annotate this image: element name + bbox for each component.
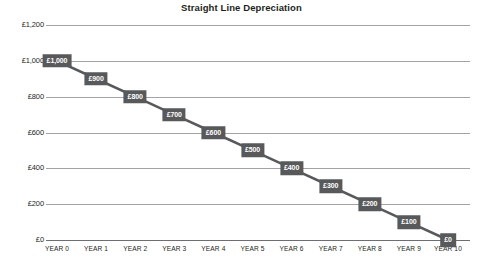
data-point-label: £200 [358, 197, 381, 211]
data-point-label: £600 [202, 126, 225, 140]
data-point-label: £300 [319, 180, 342, 194]
data-point-label: £900 [85, 72, 108, 86]
data-point-label: £0 [440, 233, 456, 247]
chart-container: Straight Line Depreciation £0£200£400£60… [0, 0, 483, 262]
plot-area: £0£200£400£600£800£1,000£1,200 YEAR 0YEA… [0, 0, 483, 262]
data-point-label: £800 [124, 90, 147, 104]
data-point-label: £400 [280, 162, 303, 176]
data-point-label: £500 [241, 144, 264, 158]
data-point-label: £100 [397, 215, 420, 229]
data-point-label: £700 [163, 108, 186, 122]
data-point-label: £1,000 [43, 54, 72, 68]
